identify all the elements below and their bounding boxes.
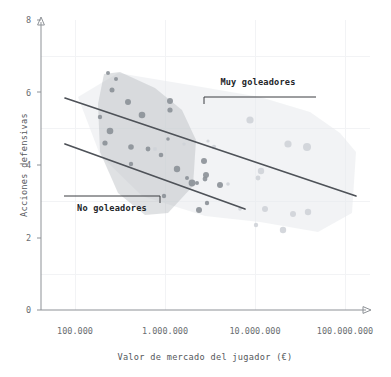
- data-point: [128, 144, 134, 150]
- scatter-chart: 02468 100.0001.000.00010.000.000100.000.…: [0, 0, 391, 377]
- data-point: [139, 112, 146, 119]
- data-point: [125, 99, 131, 105]
- annotation-label: Muy goleadores: [220, 77, 295, 87]
- data-point: [167, 98, 173, 104]
- annotation-label: No goleadores: [77, 203, 147, 213]
- data-point: [196, 207, 202, 213]
- data-point: [280, 227, 286, 233]
- data-point: [290, 211, 296, 217]
- data-point: [303, 143, 311, 151]
- data-point: [162, 194, 166, 198]
- data-point: [153, 147, 157, 151]
- x-tick-label: 100.000: [57, 326, 93, 336]
- data-point: [129, 162, 133, 166]
- data-point: [114, 77, 118, 81]
- data-point: [262, 206, 268, 212]
- data-point: [217, 182, 223, 188]
- y-tick-label: 2: [26, 233, 31, 243]
- data-point: [258, 168, 264, 174]
- data-point: [182, 142, 185, 145]
- data-point: [185, 176, 189, 180]
- x-tick-label: 100.000.000: [317, 326, 373, 336]
- data-point: [206, 139, 209, 142]
- data-point: [107, 128, 114, 135]
- data-point: [159, 153, 164, 158]
- data-point: [146, 147, 151, 152]
- data-point: [246, 116, 253, 123]
- data-point: [305, 209, 311, 215]
- data-point: [102, 140, 107, 145]
- y-axis-title: Acciones defensivas: [19, 113, 29, 217]
- x-tick-label: 1.000.000: [142, 326, 188, 336]
- data-point: [174, 166, 180, 172]
- data-point: [254, 223, 258, 227]
- data-point: [201, 158, 207, 164]
- data-point: [166, 137, 170, 141]
- data-point: [189, 180, 196, 187]
- data-point: [226, 182, 230, 186]
- data-point: [167, 107, 172, 112]
- data-point: [110, 88, 115, 93]
- data-point: [205, 201, 209, 205]
- y-tick-label: 0: [26, 305, 31, 315]
- data-point: [256, 176, 261, 181]
- x-tick-label: 10.000.000: [229, 326, 280, 336]
- data-point: [98, 115, 102, 119]
- data-point: [203, 177, 208, 182]
- data-point: [284, 140, 291, 147]
- x-axis-title: Valor de mercado del jugador (€): [117, 352, 292, 362]
- y-tick-label: 6: [26, 88, 31, 98]
- chart-svg: 02468 100.0001.000.00010.000.000100.000.…: [0, 0, 391, 377]
- data-point: [195, 181, 199, 185]
- y-tick-label: 8: [26, 15, 31, 25]
- data-point: [106, 71, 110, 75]
